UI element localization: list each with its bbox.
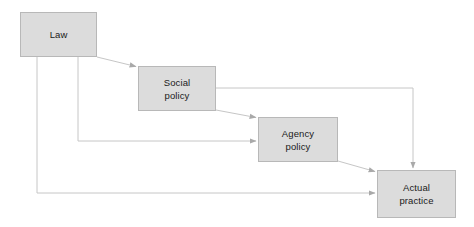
connector-law-to-social — [97, 57, 136, 67]
node-actual-practice-label: Actual practice — [397, 181, 435, 207]
node-law-label: Law — [48, 28, 70, 41]
node-law[interactable]: Law — [20, 12, 97, 57]
connector-social-to-agency — [216, 110, 256, 118]
connector-agency-to-actual — [338, 161, 375, 172]
node-agency-policy[interactable]: Agency policy — [258, 117, 338, 162]
node-social-policy[interactable]: Social policy — [138, 66, 216, 111]
diagram-canvas: Law Social policy Agency policy Actual p… — [0, 0, 474, 227]
node-social-policy-label: Social policy — [162, 76, 192, 102]
node-actual-practice[interactable]: Actual practice — [377, 170, 456, 218]
node-agency-policy-label: Agency policy — [280, 127, 316, 153]
